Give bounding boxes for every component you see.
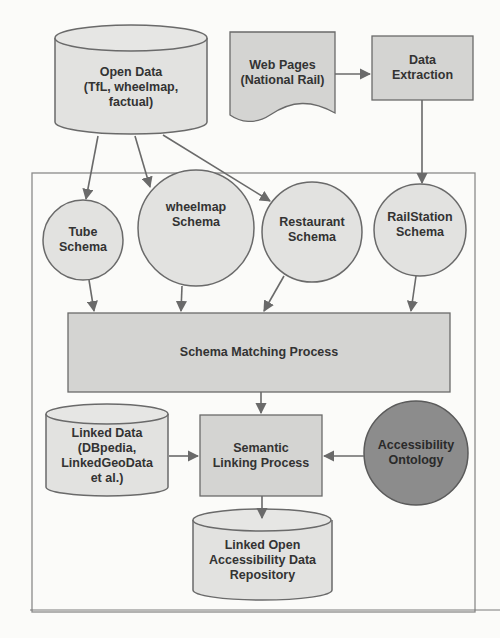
railstation-schema-node: RailStation Schema bbox=[374, 195, 466, 255]
edge-restaurant-to-matching bbox=[264, 276, 284, 311]
edge-wheelmap-to-matching bbox=[181, 286, 182, 311]
restaurant-schema-node: Restaurant Schema bbox=[262, 200, 362, 260]
edge-open-data-to-tube bbox=[86, 136, 98, 199]
lod-repository-node: Linked Open Accessibility Data Repositor… bbox=[193, 532, 332, 588]
semantic-linking-node: Semantic Linking Process bbox=[200, 415, 322, 496]
open-data-node: Open Data (TfL, wheelmap, factual) bbox=[55, 52, 207, 122]
accessibility-ontology-node: Accessibility Ontology bbox=[364, 423, 468, 483]
data-extraction-node: Data Extraction bbox=[372, 36, 473, 100]
edge-tube-to-matching bbox=[89, 280, 94, 311]
edge-open-data-to-wheelmap bbox=[135, 136, 150, 187]
web-pages-node: Web Pages (National Rail) bbox=[230, 50, 335, 95]
wheelmap-schema-node: wheelmap Schema bbox=[140, 190, 252, 240]
linked-data-node: Linked Data (DBpedia, LinkedGeoData et a… bbox=[46, 420, 168, 492]
edge-railstation-to-matching bbox=[411, 276, 416, 311]
tube-schema-node: Tube Schema bbox=[43, 205, 123, 275]
schema-matching-node: Schema Matching Process bbox=[68, 313, 450, 392]
